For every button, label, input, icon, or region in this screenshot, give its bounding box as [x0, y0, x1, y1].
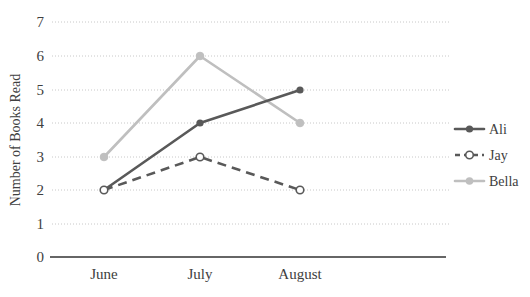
- legend: Ali Jay Bella: [455, 122, 519, 189]
- series-ali: [100, 86, 303, 193]
- series-jay-point-august: [296, 186, 304, 194]
- series-jay-point-july: [196, 153, 204, 161]
- legend-item-jay[interactable]: Jay: [455, 148, 508, 163]
- series-ali-point-july: [196, 119, 203, 126]
- legend-label-ali: Ali: [489, 122, 507, 137]
- series-jay-line: [104, 157, 300, 190]
- gridlines: [52, 22, 450, 224]
- series-bella-point-july: [196, 52, 204, 60]
- series-jay-point-june: [100, 186, 108, 194]
- y-tick-label-7: 7: [37, 14, 45, 30]
- y-tick-label-0: 0: [37, 249, 45, 265]
- y-tick-label-5: 5: [37, 82, 45, 98]
- x-tick-label-july: July: [187, 266, 213, 282]
- y-tick-label-6: 6: [37, 48, 45, 64]
- legend-item-ali[interactable]: Ali: [455, 122, 507, 137]
- chart-canvas: 7 6 5 4 3 2 1 0 Number of Books Read Jun…: [0, 0, 530, 297]
- series-bella-line: [104, 56, 300, 157]
- series-bella-point-june: [100, 153, 108, 161]
- line-chart: 7 6 5 4 3 2 1 0 Number of Books Read Jun…: [0, 0, 530, 297]
- y-tick-labels: 7 6 5 4 3 2 1 0: [37, 14, 45, 265]
- legend-swatch-bella-marker: [466, 177, 474, 185]
- x-tick-label-june: June: [90, 266, 118, 282]
- legend-item-bella[interactable]: Bella: [455, 174, 519, 189]
- y-tick-label-3: 3: [37, 149, 45, 165]
- series-ali-point-august: [296, 86, 303, 93]
- x-tick-label-august: August: [278, 266, 322, 282]
- y-tick-label-4: 4: [37, 115, 45, 131]
- legend-swatch-ali-marker: [466, 125, 473, 132]
- series-ali-line: [104, 90, 300, 190]
- legend-swatch-jay-marker: [466, 151, 474, 159]
- series-bella-point-august: [296, 119, 304, 127]
- y-tick-label-1: 1: [37, 216, 45, 232]
- series-jay: [100, 153, 304, 194]
- series-bella: [100, 52, 304, 161]
- legend-label-jay: Jay: [489, 148, 508, 163]
- x-tick-labels: June July August: [90, 266, 322, 282]
- legend-label-bella: Bella: [489, 174, 519, 189]
- y-tick-label-2: 2: [37, 182, 45, 198]
- y-axis-title: Number of Books Read: [8, 74, 23, 207]
